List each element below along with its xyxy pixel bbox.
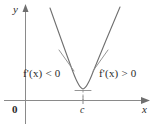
calculus-figure: y x 0 c f'(x) < 0 f'(x) > 0 [0,0,159,130]
x-axis-label: x [142,104,147,115]
y-axis-label: y [13,4,18,15]
origin-label: 0 [12,104,18,115]
derivative-positive-note: f'(x) > 0 [99,68,136,79]
y-axis [23,4,29,124]
derivative-negative-note: f'(x) < 0 [23,68,60,79]
y-axis-arrowhead [23,4,29,12]
x-tick-label-c: c [80,105,84,115]
